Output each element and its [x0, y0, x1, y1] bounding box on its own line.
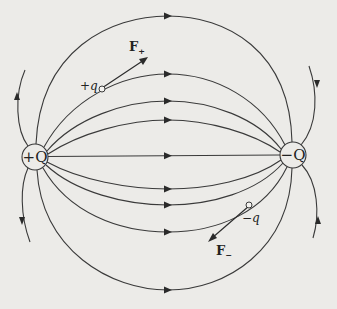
arrow-right-icon	[164, 202, 172, 209]
negative-charge-label: −Q	[281, 146, 306, 164]
positive-charge-label: +Q	[23, 148, 48, 166]
field-line-open-lower-right	[302, 165, 317, 238]
arrow-right-icon	[164, 287, 172, 294]
arrow-right-icon	[164, 98, 172, 105]
negative-test-charge: −q F−	[208, 202, 260, 260]
electric-field-diagram: +Q −Q +q F+ −q F−	[0, 0, 337, 309]
positive-test-charge-circle	[99, 86, 105, 92]
force-negative-label: F−	[216, 243, 232, 260]
field-line-open-upper-left	[18, 70, 28, 146]
positive-test-charge-label: +q	[80, 79, 98, 93]
negative-test-charge-circle	[246, 202, 252, 208]
arrow-right-icon	[164, 117, 172, 124]
arrow-right-icon	[164, 152, 172, 159]
arrow-right-icon	[164, 229, 172, 236]
field-line-open-upper-right	[301, 66, 315, 145]
positive-charge: +Q	[22, 144, 48, 170]
arrow-right-icon	[164, 186, 172, 193]
arrow-right-icon	[164, 13, 172, 20]
field-line-top-2	[47, 101, 281, 151]
field-arrows	[14, 13, 321, 294]
negative-test-charge-label: −q	[242, 211, 260, 225]
force-vector-positive	[102, 60, 144, 88]
arrow-down-icon	[314, 80, 320, 88]
negative-charge: −Q	[280, 142, 306, 168]
arrow-right-icon	[164, 71, 172, 78]
field-line-open-lower-left	[22, 168, 30, 242]
arrow-head-icon	[139, 57, 148, 65]
field-line-top-1	[48, 120, 280, 154]
force-positive-label: F+	[129, 39, 145, 56]
field-diagram-svg: +Q −Q +q F+ −q F−	[0, 0, 337, 309]
field-line-bottom-1	[47, 160, 281, 189]
field-line-bottom-2	[46, 163, 283, 205]
arrow-up-icon	[315, 216, 321, 224]
field-lines	[18, 16, 317, 290]
